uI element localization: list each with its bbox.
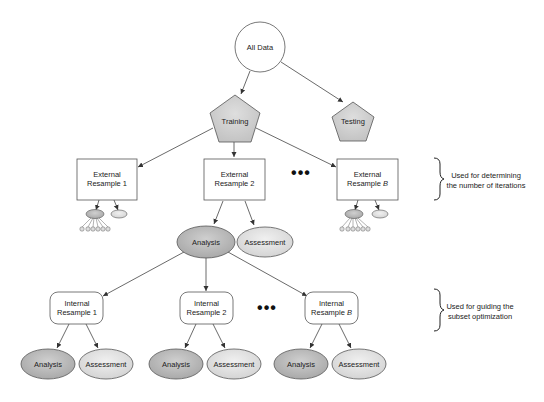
assessment-label: Assessment <box>245 238 287 247</box>
mini-assessment-ellipse <box>372 210 388 218</box>
mini-analysis-ellipse <box>86 210 104 219</box>
external-split: Analysis Assessment <box>177 226 293 258</box>
assessment-label: Assessment <box>86 360 128 369</box>
edge-analysis-intB <box>228 252 307 296</box>
testing-label: Testing <box>341 117 365 126</box>
edge-ext1-analysis <box>96 200 99 210</box>
edge-extB-assessment <box>375 200 379 210</box>
internal-resample-1-line1: Internal <box>64 299 89 308</box>
edge-int2-assessment <box>213 324 225 348</box>
edge-ext1-assessment <box>114 200 118 210</box>
analysis-label: Analysis <box>287 360 315 369</box>
node-all-data: All Data <box>235 22 285 72</box>
edge-training-ext1 <box>138 128 213 167</box>
internal-resample-1-line2: Resample 1 <box>57 308 97 317</box>
edge-alldata-training <box>241 71 250 94</box>
ellipsis-external: ••• <box>291 164 311 181</box>
edge-extB-analysis <box>355 200 358 210</box>
internal-resample-2-line2: Resample 2 <box>186 308 226 317</box>
edge-int1-analysis <box>57 324 69 348</box>
external-resample-1-line1: External <box>93 170 121 179</box>
internal-resample-b-line2: Resample B <box>311 308 352 317</box>
mini-branches <box>342 218 368 227</box>
annotation-internal: Used for guiding the subset optimization <box>434 289 514 331</box>
external-resample-2-line1: External <box>221 170 249 179</box>
node-testing: Testing <box>332 102 374 141</box>
internal-resample-1: Internal Resample 1 Analysis Assessment <box>21 292 133 379</box>
training-label: Training <box>222 117 249 126</box>
edge-alldata-testing <box>281 62 343 102</box>
edge-intB-analysis <box>310 324 322 348</box>
edge-ext2-analysis <box>214 201 223 224</box>
mini-analysis-ellipse <box>345 210 363 219</box>
nested-resampling-diagram: All Data Training Testing External Resam… <box>0 0 544 402</box>
all-data-label: All Data <box>247 43 274 52</box>
analysis-label: Analysis <box>34 360 62 369</box>
analysis-label: Analysis <box>162 360 190 369</box>
internal-resample-2-line1: Internal <box>194 299 219 308</box>
edge-training-extB <box>256 128 336 167</box>
assessment-label: Assessment <box>339 360 381 369</box>
node-training: Training <box>210 95 260 142</box>
annotation-internal-line1: Used for guiding the <box>446 302 513 311</box>
internal-resample-b-line1: Internal <box>319 299 344 308</box>
external-resample-1: External Resample 1 <box>77 159 137 231</box>
external-resample-b-line1: External <box>354 170 382 179</box>
external-resample-b: External Resample B <box>337 159 398 231</box>
mini-leaf-circles <box>80 227 110 231</box>
external-resample-b-line2: Resample B <box>347 179 388 188</box>
analysis-label: Analysis <box>192 238 220 247</box>
curly-brace-icon <box>434 289 444 331</box>
mini-leaf-circles <box>340 227 370 231</box>
edge-int2-analysis <box>185 324 196 348</box>
edge-intB-assessment <box>339 324 351 348</box>
annotation-external-line2: the number of iterations <box>447 181 526 190</box>
annotation-external: Used for determining the number of itera… <box>434 158 526 200</box>
edge-ext2-assessment <box>245 201 254 225</box>
assessment-label: Assessment <box>214 360 256 369</box>
external-resample-2: External Resample 2 <box>204 159 265 200</box>
external-resample-2-line2: Resample 2 <box>214 179 254 188</box>
mini-assessment-ellipse <box>111 210 127 218</box>
curly-brace-icon <box>434 158 444 200</box>
annotation-internal-line2: subset optimization <box>448 312 512 321</box>
internal-resample-2: Internal Resample 2 Analysis Assessment <box>149 292 261 379</box>
internal-resample-b: Internal Resample B Analysis Assessment <box>274 292 386 379</box>
edge-analysis-int1 <box>103 252 184 296</box>
edge-int1-assessment <box>86 324 98 348</box>
ellipsis-internal: ••• <box>257 299 277 316</box>
external-resample-1-line2: Resample 1 <box>87 179 127 188</box>
mini-branches <box>82 218 108 227</box>
annotation-external-line1: Used for determining <box>451 171 521 180</box>
